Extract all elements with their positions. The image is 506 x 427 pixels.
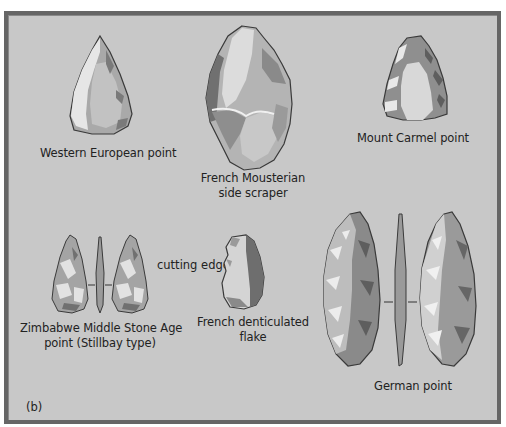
german-point-label: German point (353, 379, 473, 394)
label-line: Zimbabwe Middle Stone Age (20, 321, 180, 336)
mount-carmel-point-illustration (381, 34, 455, 126)
french-denticulated-flake-label: French denticulated flake (193, 315, 313, 345)
french-denticulated-flake-illustration (220, 233, 266, 311)
mount-carmel-point-label: Mount Carmel point (353, 131, 473, 146)
western-european-point-illustration (66, 34, 136, 138)
panel-label: (b) (26, 400, 42, 414)
label-line: German point (374, 379, 452, 393)
zimbabwe-middle-stone-age-point-label: Zimbabwe Middle Stone Age point (Stillba… (20, 321, 180, 351)
label-line: point (Stillbay type) (20, 336, 180, 351)
label-line: French Mousterian (193, 171, 313, 186)
german-point-illustration (322, 210, 478, 370)
french-mousterian-side-scraper-illustration (202, 24, 296, 172)
french-mousterian-side-scraper-label: French Mousterian side scraper (193, 171, 313, 201)
label-line: flake (193, 330, 313, 345)
zimbabwe-middle-stone-age-point-illustration (50, 233, 150, 317)
label-line: Mount Carmel point (357, 131, 469, 145)
cutting-edge-label: cutting edge (157, 258, 230, 272)
label-line: French denticulated (193, 315, 313, 330)
western-european-point-label: Western European point (40, 146, 160, 161)
label-line: side scraper (193, 186, 313, 201)
label-line: Western European point (40, 146, 176, 160)
